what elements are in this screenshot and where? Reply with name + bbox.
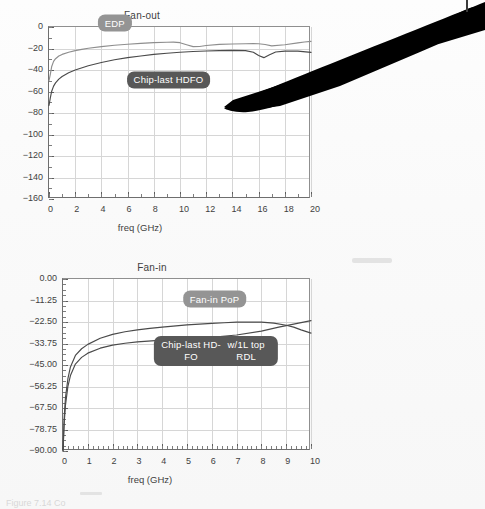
chart-title-fan-out: Fan-out bbox=[0, 10, 312, 21]
callout-line: Fan-in PoP bbox=[190, 293, 240, 305]
callout-line: EDP bbox=[105, 17, 125, 29]
y-tick-label: −120 bbox=[23, 150, 43, 160]
callout-line: w/1L top RDL bbox=[221, 339, 270, 363]
y-tick-label: −67.50 bbox=[29, 402, 57, 412]
plot-area-fan-out bbox=[48, 26, 310, 198]
y-tick-label: −22.50 bbox=[29, 316, 57, 326]
page-caption-partial: Figure 7.14 Co bbox=[6, 498, 156, 508]
y-tick-label: −140 bbox=[23, 172, 43, 182]
chart-title-fan-in: Fan-in bbox=[0, 262, 322, 273]
y-tick-label: −45.00 bbox=[29, 359, 57, 369]
scanned-page: Fan-out freq (GHz) 024681012141618200−20… bbox=[0, 0, 485, 509]
y-tick-label: 0 bbox=[38, 21, 43, 31]
y-tick-label: −33.75 bbox=[29, 338, 57, 348]
y-tick-minor bbox=[49, 199, 52, 200]
y-tick-label: −40 bbox=[28, 64, 43, 74]
y-tick-label: −60 bbox=[28, 86, 43, 96]
y-tick-label: −20 bbox=[28, 43, 43, 53]
x-axis-title-fan-out: freq (GHz) bbox=[0, 222, 310, 233]
figure-fan-in: Fan-in freq (GHz) 0123456789100.00−11.25… bbox=[0, 258, 340, 496]
y-tick-label: −11.25 bbox=[30, 295, 57, 305]
page-edge-mark bbox=[466, 0, 468, 12]
y-tick-label: −160 bbox=[23, 193, 43, 203]
scan-speck bbox=[352, 258, 392, 263]
gridline-vertical bbox=[311, 279, 312, 449]
scan-speck bbox=[80, 492, 102, 495]
y-tick-label: −80 bbox=[28, 107, 43, 117]
x-tick-minor bbox=[311, 446, 312, 449]
callout-line: Chip-last HD-FO bbox=[161, 339, 222, 363]
chart-callout-label: Fan-in PoP bbox=[183, 291, 247, 308]
x-axis-title-fan-in: freq (GHz) bbox=[0, 474, 320, 485]
chart-callout-label: Chip-last HD-FOw/1L top RDL bbox=[154, 336, 278, 366]
x-tick-minor bbox=[311, 194, 312, 197]
y-tick-label: 0.00 bbox=[39, 273, 57, 283]
y-tick-label: −90.00 bbox=[29, 445, 57, 455]
chart-callout-label: EDP bbox=[98, 15, 132, 32]
y-tick-label: −56.25 bbox=[29, 381, 57, 391]
y-tick-label: −100 bbox=[23, 129, 43, 139]
figure-fan-out: Fan-out freq (GHz) 024681012141618200−20… bbox=[0, 4, 340, 242]
callout-line: Chip-last HDFO bbox=[134, 74, 204, 86]
chart-callout-label: Chip-last HDFO bbox=[127, 71, 211, 88]
y-tick-label: −78.75 bbox=[29, 424, 57, 434]
curve-layer bbox=[49, 27, 311, 199]
